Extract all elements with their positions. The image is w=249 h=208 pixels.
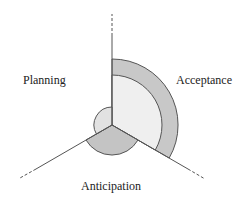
axis-lower-left-dashed [20, 169, 36, 178]
radial-diagram [0, 0, 249, 208]
label-acceptance: Acceptance [176, 73, 232, 88]
label-anticipation: Anticipation [81, 179, 141, 194]
label-planning: Planning [23, 73, 66, 88]
axis-lower-right-dashed [188, 169, 205, 179]
